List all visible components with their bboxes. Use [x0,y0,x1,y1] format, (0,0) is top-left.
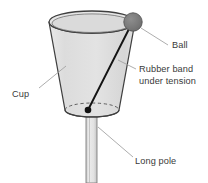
label-rubber-band-line1: Rubber band [139,64,193,74]
leader-line-ball [141,28,168,45]
cup-rim-inner [52,14,132,33]
label-cup: Cup [12,89,29,99]
rubber-band-anchor-point [85,107,92,114]
leader-line-long-pole [98,127,133,157]
label-long-pole: Long pole [135,156,176,166]
physics-diagram-figure: Ball Rubber band under tension Cup Long … [0,0,208,183]
label-rubber-band-line2: under tension [139,76,196,86]
ball-shape [124,13,142,31]
diagram-canvas: Ball Rubber band under tension Cup Long … [0,0,208,183]
label-ball: Ball [172,40,188,50]
